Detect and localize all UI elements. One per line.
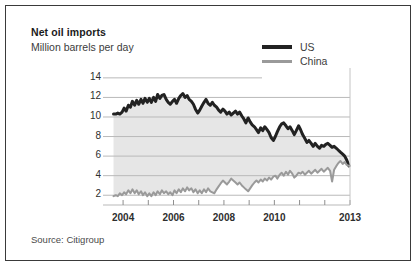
- y-axis-tick-label: 4: [75, 169, 101, 180]
- x-axis-tick-label: 2006: [154, 212, 194, 223]
- chart-plot-area: [0, 0, 416, 268]
- y-axis-tick-label: 10: [75, 110, 101, 121]
- chart-source-note: Source: Citigroup: [31, 234, 104, 245]
- chart-figure: Net oil imports Million barrels per day …: [0, 0, 416, 268]
- y-axis-tick-label: 14: [75, 71, 101, 82]
- y-axis-tick-label: 8: [75, 130, 101, 141]
- y-axis-tick-label: 2: [75, 188, 101, 199]
- x-axis-tick-label: 2004: [103, 212, 143, 223]
- x-axis-tick-label: 2013: [330, 212, 370, 223]
- y-axis-tick-label: 6: [75, 149, 101, 160]
- x-axis-tick-label: 2010: [254, 212, 294, 223]
- x-axis-tick-label: 2008: [204, 212, 244, 223]
- y-axis-tick-label: 12: [75, 90, 101, 101]
